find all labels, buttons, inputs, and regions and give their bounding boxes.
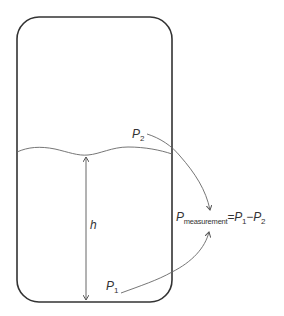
p2-arrow [147, 134, 210, 210]
height-label: h [90, 219, 97, 231]
formula-lhs-base: P [176, 210, 184, 224]
p1-label: P1 [106, 280, 118, 292]
formula-lhs-sub: measurement [184, 217, 228, 226]
formula-term2-sub: 2 [261, 217, 265, 226]
p1-label-sub: 1 [114, 286, 118, 295]
p2-label: P2 [132, 128, 144, 140]
p2-label-sub: 2 [140, 134, 144, 143]
diagram-canvas [0, 0, 284, 316]
pressure-formula: Pmeasurement=P1−P2 [176, 211, 265, 223]
formula-term1-sub: 1 [242, 217, 246, 226]
tank-outline [17, 17, 172, 302]
p1-label-base: P [106, 279, 114, 293]
p2-label-base: P [132, 127, 140, 141]
formula-term2-base: P [253, 210, 261, 224]
liquid-surface-line [17, 147, 172, 155]
formula-term1-base: P [234, 210, 242, 224]
p1-arrow [121, 232, 209, 293]
